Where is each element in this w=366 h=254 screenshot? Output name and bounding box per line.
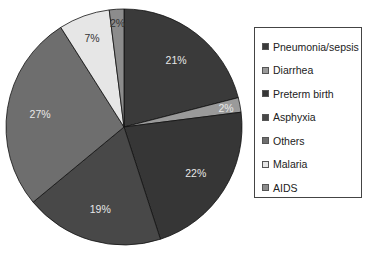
legend-label: Preterm birth — [273, 88, 334, 100]
legend-item-aids: AIDS — [255, 176, 361, 200]
legend-item-pneumonia-sepsis: Pneumonia/sepsis — [255, 35, 361, 59]
legend-swatch-icon — [262, 114, 269, 121]
slice-percent-label: 21% — [166, 54, 187, 66]
legend-label: Asphyxia — [273, 111, 316, 123]
legend-swatch-icon — [262, 184, 269, 191]
legend-label: Diarrhea — [273, 64, 313, 76]
legend-item-malaria: Malaria — [255, 153, 361, 177]
legend-swatch-icon — [262, 161, 269, 168]
slice-percent-label: 19% — [90, 203, 111, 215]
chart-legend: Pneumonia/sepsis Diarrhea Preterm birth … — [254, 27, 362, 198]
pie-chart: 21%2%22%19%27%7%2% — [0, 0, 250, 254]
legend-label: Malaria — [273, 158, 307, 170]
legend-swatch-icon — [262, 90, 269, 97]
legend-item-others: Others — [255, 129, 361, 153]
legend-label: AIDS — [273, 182, 298, 194]
legend-swatch-icon — [262, 137, 269, 144]
legend-label: Others — [273, 135, 305, 147]
legend-label: Pneumonia/sepsis — [273, 41, 359, 53]
legend-swatch-icon — [262, 43, 269, 50]
legend-item-preterm-birth: Preterm birth — [255, 82, 361, 106]
legend-swatch-icon — [262, 67, 269, 74]
slice-percent-label: 2% — [218, 102, 233, 114]
slice-percent-label: 2% — [110, 17, 125, 29]
slice-percent-label: 27% — [30, 108, 51, 120]
legend-item-asphyxia: Asphyxia — [255, 106, 361, 130]
legend-item-diarrhea: Diarrhea — [255, 59, 361, 83]
slice-percent-label: 7% — [84, 32, 99, 44]
slice-percent-label: 22% — [185, 167, 206, 179]
